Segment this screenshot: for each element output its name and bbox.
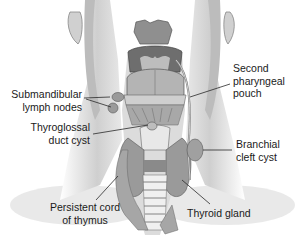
label-line: Branchial <box>236 138 303 151</box>
label-thyroglossal-duct-cyst: Thyroglossal duct cyst <box>10 121 90 146</box>
branchial-cleft-cyst <box>187 139 203 161</box>
label-line: pharyngeal <box>233 75 303 88</box>
label-line: duct cyst <box>10 134 90 147</box>
thyroglossal-duct-cyst <box>147 122 157 130</box>
label-line: of thymus <box>40 214 130 227</box>
lymph-node-1 <box>112 93 124 102</box>
label-line: Submandibular <box>10 88 82 101</box>
label-second-pharyngeal-pouch: Second pharyngeal pouch <box>233 62 303 100</box>
label-line: lymph nodes <box>10 101 82 114</box>
label-submandibular-lymph-nodes: Submandibular lymph nodes <box>10 88 82 113</box>
label-line: Second <box>233 62 303 75</box>
hyoid-band <box>124 95 186 105</box>
label-line: Thyroid gland <box>187 207 277 220</box>
label-branchial-cleft-cyst: Branchial cleft cyst <box>236 138 303 163</box>
lymph-node-2 <box>108 103 118 113</box>
label-line: pouch <box>233 87 303 100</box>
label-persistent-cord-of-thymus: Persistent cord of thymus <box>40 201 130 226</box>
label-line: Thyroglossal <box>10 121 90 134</box>
label-line: cleft cyst <box>236 151 303 164</box>
label-thyroid-gland: Thyroid gland <box>187 207 277 220</box>
label-line: Persistent cord <box>40 201 130 214</box>
skull-base <box>134 20 172 44</box>
tongue <box>127 69 184 99</box>
